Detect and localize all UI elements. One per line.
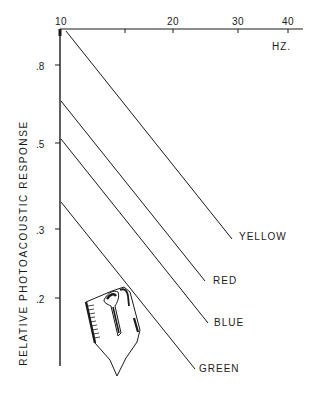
series-line-red — [61, 101, 205, 281]
y-tick-label-0-8: .8 — [36, 61, 44, 72]
x-tick-label-10: 10 — [55, 16, 67, 27]
chart-canvas — [0, 0, 321, 394]
x-tick-label-40: 40 — [282, 16, 294, 27]
series-label-green: GREEN — [199, 363, 240, 374]
series-label-red: RED — [213, 275, 237, 286]
series-label-yellow: YELLOW — [239, 231, 287, 242]
x-tick-label-20: 20 — [167, 16, 179, 27]
series-line-yellow — [66, 31, 232, 239]
series-line-blue — [61, 139, 208, 323]
photoacoustic-chart: 10 20 30 40 HZ. .8 .5 .3 .2 RELATIVE PHO… — [0, 0, 321, 394]
y-tick-label-0-2: .2 — [36, 294, 44, 305]
x-tick-label-30: 30 — [232, 16, 244, 27]
y-axis-title: RELATIVE PHOTOACOUSTIC RESPONSE — [18, 120, 29, 365]
x-axis-unit-label: HZ. — [272, 41, 291, 52]
y-tick-label-0-5: .5 — [36, 139, 44, 150]
y-ticks — [55, 65, 60, 298]
y-tick-label-0-3: .3 — [36, 225, 44, 236]
series-label-blue: BLUE — [214, 317, 244, 328]
leaf-specimen-illustration — [86, 287, 140, 376]
